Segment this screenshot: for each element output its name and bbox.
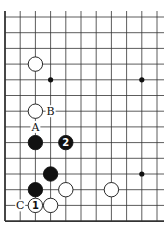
point-label: B xyxy=(47,105,55,118)
star-point xyxy=(139,171,144,176)
star-point xyxy=(48,77,53,82)
black-stone: 2 xyxy=(59,135,73,149)
point-label: A xyxy=(30,121,40,134)
white-stone xyxy=(28,104,42,118)
move-number: 1 xyxy=(32,200,39,211)
white-stone xyxy=(104,183,118,197)
stones: 21 xyxy=(28,57,118,213)
go-board: 21 BAC xyxy=(0,0,167,231)
point-label: C xyxy=(16,199,24,212)
white-stone xyxy=(28,57,42,71)
black-stone xyxy=(28,135,42,149)
white-stone: 1 xyxy=(28,198,42,212)
star-point xyxy=(139,77,144,82)
white-stone xyxy=(59,183,73,197)
white-stone xyxy=(43,198,57,212)
black-stone xyxy=(28,183,42,197)
black-stone xyxy=(43,167,57,181)
move-number: 2 xyxy=(62,137,69,148)
